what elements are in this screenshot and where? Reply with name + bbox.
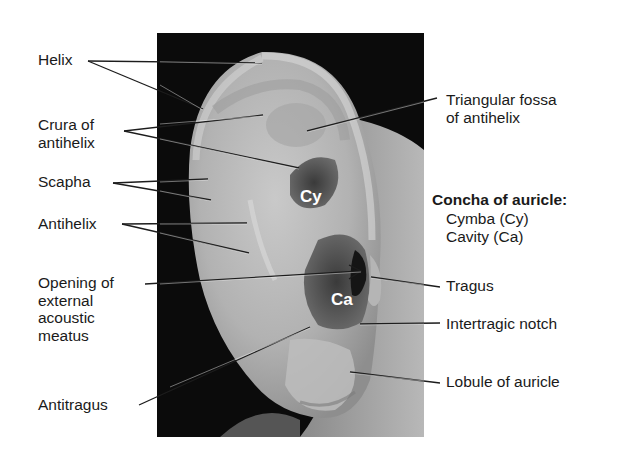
label-crura-of-antihelix: Crura of antihelix [38,116,95,151]
label-tragus: Tragus [446,277,494,295]
concha-legend-cavity: Cavity (Ca) [446,228,524,246]
label-scapha: Scapha [38,173,91,191]
photo-label-cy: Cy [300,187,322,207]
label-lobule-of-auricle: Lobule of auricle [446,373,560,391]
ear-anatomy-figure: Helix Crura of antihelix Scapha Antiheli… [0,0,635,453]
label-intertragic-notch: Intertragic notch [446,315,557,333]
label-helix: Helix [38,51,72,69]
label-triangular-fossa: Triangular fossa of antihelix [446,91,557,126]
label-antihelix: Antihelix [38,215,97,233]
concha-legend-cymba: Cymba (Cy) [446,210,529,228]
label-opening-external-acoustic-meatus: Opening of external acoustic meatus [38,274,114,344]
concha-legend-title: Concha of auricle: [432,191,567,209]
photo-label-ca: Ca [331,290,353,310]
label-antitragus: Antitragus [38,396,108,414]
